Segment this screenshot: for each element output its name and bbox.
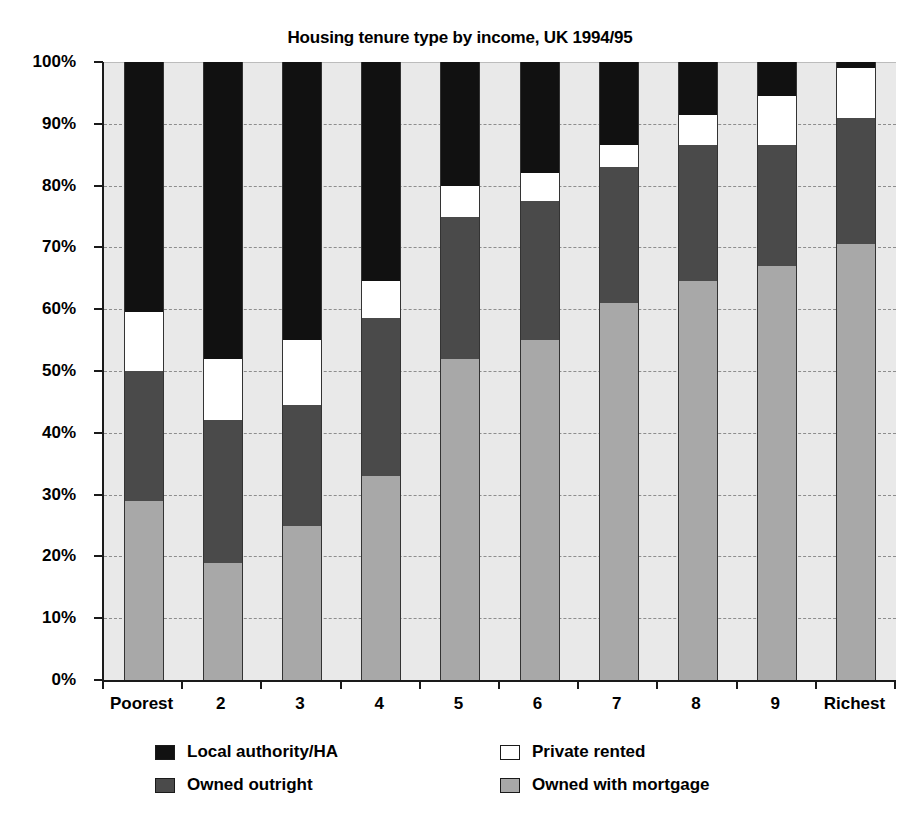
y-axis-tick-label: 90% (42, 114, 76, 134)
bar-segment-la (521, 62, 559, 173)
x-axis-tick (181, 680, 183, 689)
legend-item-label: Owned outright (187, 775, 313, 795)
stacked-bar[interactable] (836, 62, 876, 680)
stacked-bar[interactable] (757, 62, 797, 680)
bar-segment-oo (837, 118, 875, 245)
bar-segment-la (362, 62, 400, 281)
bar-segment-pr (362, 281, 400, 318)
bar-segment-owm (362, 476, 400, 680)
bar-segment-la (837, 62, 875, 68)
legend-item[interactable]: Owned outright (155, 775, 313, 795)
stacked-bar[interactable] (520, 62, 560, 680)
x-axis-tick (260, 680, 262, 689)
y-axis-tick-label: 60% (42, 299, 76, 319)
bar-segment-owm (679, 281, 717, 680)
bar-segment-owm (125, 501, 163, 680)
x-axis-tick (419, 680, 421, 689)
chart-container: Housing tenure type by income, UK 1994/9… (0, 0, 920, 824)
x-axis-tick (894, 680, 896, 689)
legend-item-label: Local authority/HA (187, 742, 338, 762)
bar-slot (421, 62, 500, 680)
y-axis-tick-label: 0% (51, 670, 76, 690)
x-axis-tick-label: 8 (691, 694, 700, 714)
x-axis-tick-label: 7 (612, 694, 621, 714)
legend-item[interactable]: Private rented (500, 742, 645, 762)
bar-slot (183, 62, 262, 680)
x-axis-tick-label: Poorest (110, 694, 173, 714)
bar-segment-la (758, 62, 796, 96)
x-axis-tick-label: 6 (533, 694, 542, 714)
bar-segment-owm (837, 244, 875, 680)
bar-segment-oo (204, 420, 242, 562)
bar-segment-oo (125, 371, 163, 501)
x-axis-tick (102, 680, 104, 689)
bar-segment-pr (758, 96, 796, 145)
x-axis-ticks (102, 680, 896, 690)
bar-segment-la (125, 62, 163, 312)
bar-segment-oo (441, 217, 479, 359)
stacked-bar[interactable] (678, 62, 718, 680)
legend-item[interactable]: Local authority/HA (155, 742, 338, 762)
swatch-private-rented-icon (500, 745, 520, 760)
bar-segment-pr (283, 340, 321, 405)
x-axis-tick-label: 3 (295, 694, 304, 714)
bar-segment-la (679, 62, 717, 115)
x-axis-tick-label: Richest (824, 694, 885, 714)
legend-item-label: Owned with mortgage (532, 775, 710, 795)
x-axis-tick (736, 680, 738, 689)
bar-segment-la (283, 62, 321, 340)
bar-segment-owm (521, 340, 559, 680)
bar-segment-owm (441, 359, 479, 680)
bar-segment-oo (362, 318, 400, 476)
bar-slot (342, 62, 421, 680)
x-axis-tick-label: 5 (454, 694, 463, 714)
bar-segment-oo (679, 145, 717, 281)
bar-segment-owm (283, 526, 321, 681)
y-axis-tick-label: 70% (42, 237, 76, 257)
bar-segment-oo (600, 167, 638, 303)
bar-segment-pr (521, 173, 559, 201)
legend-item[interactable]: Owned with mortgage (500, 775, 710, 795)
bar-segment-oo (758, 145, 796, 266)
bar-slot (579, 62, 658, 680)
y-axis-tick-label: 30% (42, 485, 76, 505)
x-axis-labels: Poorest23456789Richest (102, 694, 894, 722)
bar-slot (262, 62, 341, 680)
chart-legend: Local authority/HAPrivate rentedOwned ou… (155, 742, 795, 804)
bar-segment-pr (125, 312, 163, 371)
bar-segment-la (204, 62, 242, 359)
bar-segment-oo (283, 405, 321, 526)
stacked-bar[interactable] (361, 62, 401, 680)
stacked-bar[interactable] (203, 62, 243, 680)
bar-segment-pr (600, 145, 638, 167)
swatch-owned-outright-icon (155, 778, 175, 793)
y-axis-tick-label: 40% (42, 423, 76, 443)
y-axis-tick-label: 20% (42, 546, 76, 566)
bar-slot (817, 62, 896, 680)
bar-segment-oo (521, 201, 559, 340)
swatch-owned-with-mortgage-icon (500, 778, 520, 793)
swatch-local-authority-icon (155, 745, 175, 760)
x-axis-tick-label: 9 (770, 694, 779, 714)
bar-segment-pr (837, 68, 875, 117)
y-axis-tick-label: 10% (42, 608, 76, 628)
stacked-bar[interactable] (282, 62, 322, 680)
legend-item-label: Private rented (532, 742, 645, 762)
y-axis-tick-label: 50% (42, 361, 76, 381)
stacked-bar[interactable] (599, 62, 639, 680)
bar-segment-pr (441, 186, 479, 217)
x-axis-tick (577, 680, 579, 689)
x-axis-tick-label: 4 (374, 694, 383, 714)
bar-segment-la (441, 62, 479, 186)
stacked-bar[interactable] (440, 62, 480, 680)
stacked-bar[interactable] (124, 62, 164, 680)
bar-segment-pr (204, 359, 242, 421)
y-axis-tick-label: 100% (33, 52, 76, 72)
bar-slot (658, 62, 737, 680)
x-axis-tick (498, 680, 500, 689)
x-axis-tick-label: 2 (216, 694, 225, 714)
bar-slot (500, 62, 579, 680)
bar-segment-la (600, 62, 638, 145)
bar-group (104, 62, 896, 680)
bar-slot (104, 62, 183, 680)
